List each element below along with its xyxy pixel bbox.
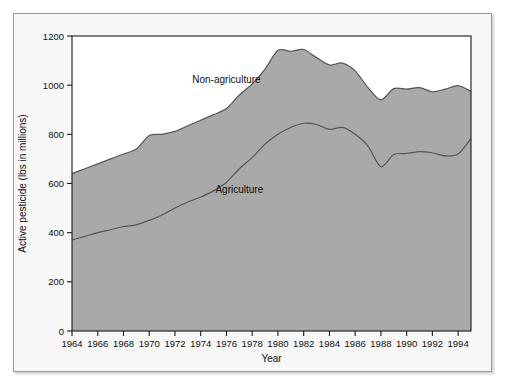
y-axis-tick-label: 0 — [59, 326, 64, 337]
area-chart: 020040060080010001200Active pesticide (l… — [0, 0, 510, 386]
y-axis-tick-label: 1200 — [43, 31, 64, 42]
series-annotation-agriculture: Agriculture — [215, 184, 263, 195]
y-axis-tick-label: 800 — [48, 129, 64, 140]
figure-root: 020040060080010001200Active pesticide (l… — [0, 0, 510, 386]
x-axis-tick-label: 1988 — [370, 338, 391, 349]
x-axis-tick-label: 1976 — [216, 338, 237, 349]
x-axis-tick-label: 1974 — [190, 338, 211, 349]
y-axis: 020040060080010001200Active pesticide (l… — [17, 31, 72, 337]
x-axis-tick-label: 1992 — [422, 338, 443, 349]
y-axis-tick-label: 1000 — [43, 80, 64, 91]
x-axis-title: Year — [261, 353, 282, 364]
x-axis-tick-label: 1970 — [139, 338, 160, 349]
y-axis-tick-label: 400 — [48, 227, 64, 238]
x-axis-tick-label: 1986 — [345, 338, 366, 349]
series-annotation-non-agriculture: Non-agriculture — [192, 74, 261, 85]
x-axis-tick-label: 1972 — [164, 338, 185, 349]
x-axis-tick-label: 1968 — [113, 338, 134, 349]
x-axis: 1964196619681970197219741976197819801982… — [61, 331, 468, 364]
x-axis-tick-label: 1990 — [396, 338, 417, 349]
x-axis-tick-label: 1982 — [293, 338, 314, 349]
y-axis-tick-label: 600 — [48, 178, 64, 189]
y-axis-tick-label: 200 — [48, 276, 64, 287]
x-axis-tick-label: 1964 — [61, 338, 82, 349]
x-axis-tick-label: 1994 — [448, 338, 469, 349]
x-axis-tick-label: 1984 — [319, 338, 340, 349]
x-axis-tick-label: 1980 — [267, 338, 288, 349]
y-axis-title: Active pesticide (lbs in millions) — [17, 114, 28, 252]
x-axis-tick-label: 1966 — [87, 338, 108, 349]
x-axis-tick-label: 1978 — [242, 338, 263, 349]
